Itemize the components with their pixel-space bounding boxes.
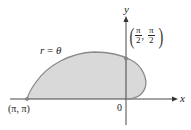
- point-pi2-pi2: [124, 57, 127, 60]
- left-paren: (: [130, 23, 135, 50]
- y-axis-arrow-icon: [124, 16, 129, 22]
- equation-label: r = θ: [40, 45, 61, 56]
- point-pi-pi-label: (π, π): [8, 104, 30, 114]
- equation-rhs: θ: [56, 44, 61, 56]
- point-pi2-pi2-label: π 2 , π 2: [135, 26, 155, 45]
- fraction-y: π 2: [148, 26, 155, 45]
- origin-label: 0: [117, 103, 122, 113]
- y-axis-label: y: [124, 4, 129, 15]
- equation-lhs: r: [40, 44, 44, 56]
- right-paren: ): [159, 23, 164, 50]
- x-axis-label: x: [180, 93, 185, 104]
- separator: ,: [142, 30, 145, 41]
- point-pi-pi: [25, 97, 28, 100]
- equation-eq: =: [47, 44, 53, 56]
- x-axis-arrow-icon: [172, 97, 178, 102]
